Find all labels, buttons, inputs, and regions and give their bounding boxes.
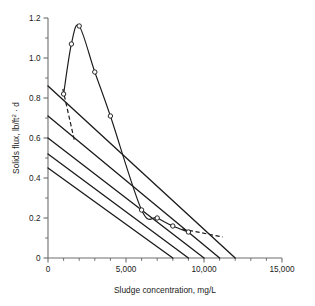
data-point-marker — [171, 224, 175, 228]
y-tick-label: 0.2 — [29, 214, 41, 223]
x-tick-label: 10,000 — [191, 265, 216, 274]
data-point-marker — [186, 230, 190, 234]
data-point-marker — [69, 42, 73, 46]
x-axis-title: Sludge concentration, mg/L — [114, 285, 216, 295]
y-tick-label: 0.8 — [29, 94, 41, 103]
data-point-marker — [139, 208, 143, 212]
data-point-marker — [61, 92, 65, 96]
y-tick-label: 0.4 — [29, 174, 41, 183]
solids-flux-chart: 05,00010,00015,000 00.20.40.60.81.01.2 S… — [0, 0, 315, 306]
data-point-marker — [108, 114, 112, 118]
y-tick-label: 0.6 — [29, 134, 41, 143]
y-tick-label: 1.0 — [29, 54, 41, 63]
figure-container: 05,00010,00015,000 00.20.40.60.81.01.2 S… — [0, 0, 315, 306]
svg-text:Solids flux, lb/ft2 · d: Solids flux, lb/ft2 · d — [11, 102, 21, 174]
data-point-marker — [155, 216, 159, 220]
y-axis-title: Solids flux, lb/ft2 · d — [11, 102, 21, 174]
y-axis-title-prefix: Solids flux, lb/ft — [11, 117, 21, 174]
data-point-marker — [93, 70, 97, 74]
y-axis-title-suffix: · d — [11, 102, 21, 114]
y-tick-label: 1.2 — [29, 14, 41, 23]
x-tick-label: 5,000 — [116, 265, 137, 274]
y-tick-label: 0 — [36, 254, 41, 263]
x-tick-label: 0 — [46, 265, 51, 274]
x-tick-label: 15,000 — [269, 265, 294, 274]
data-point-marker — [77, 24, 81, 28]
